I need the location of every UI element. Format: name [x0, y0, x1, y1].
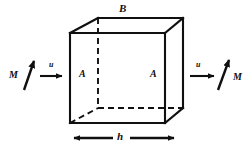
- bottom-left-depth-hidden-edge: [70, 108, 98, 123]
- cube-visible-edges: [70, 18, 183, 123]
- inflow-arrows: [24, 61, 62, 90]
- top-face-label: B: [119, 3, 126, 14]
- top-right-depth-edge: [165, 18, 183, 33]
- top-left-depth-edge: [70, 18, 98, 33]
- right-face-label: A: [150, 69, 157, 79]
- cube-control-volume-figure: B A A h u u M M: [0, 0, 249, 154]
- velocity-out-label: u: [196, 61, 200, 69]
- bottom-right-depth-edge: [165, 108, 183, 123]
- magnetization-in-label: M: [9, 70, 18, 80]
- magnetization-out-arrow: [218, 60, 229, 90]
- width-dimension-label: h: [117, 131, 123, 142]
- velocity-in-label: u: [49, 61, 53, 69]
- left-face-label: A: [79, 69, 86, 79]
- magnetization-out-label: M: [233, 72, 242, 82]
- magnetization-in-arrow: [24, 61, 34, 90]
- cube-diagram-svg: [0, 0, 249, 154]
